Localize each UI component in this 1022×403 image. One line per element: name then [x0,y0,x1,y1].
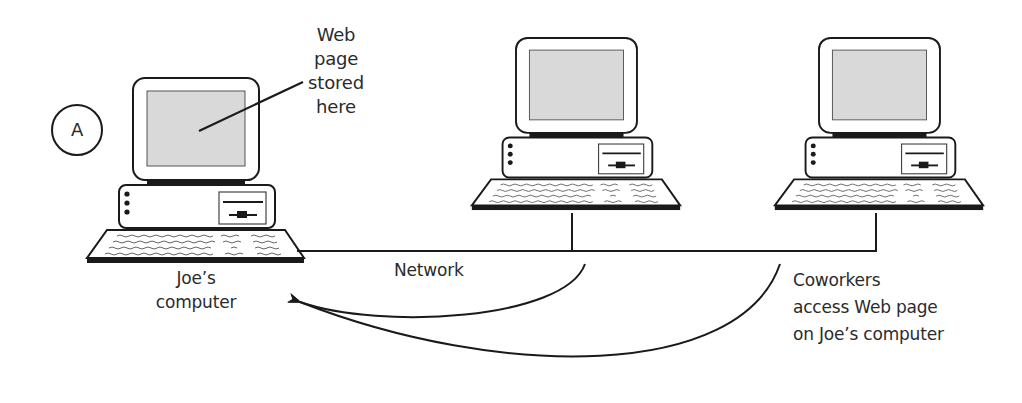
access-arrows [300,264,780,356]
joe-computer-label: Joe’s computer [136,266,256,314]
marker-label: A [62,119,92,141]
callout-line: Web [298,23,374,47]
callout-line: page [298,47,374,71]
network-bus [297,213,876,251]
callout-text: Web page stored here [298,23,374,119]
caption-line: on Joe’s computer [793,321,944,348]
coworker-computer-icon [775,38,983,210]
caption-text: Coworkers access Web page on Joe’s compu… [793,267,944,348]
joe-computer-icon [87,78,304,263]
coworker-computer-icon [472,38,680,210]
network-label: Network [394,259,464,281]
network-diagram: A Web page stored here Joe’s computer Ne… [0,0,1022,403]
caption-line: access Web page [793,294,944,321]
caption-line: Coworkers [793,267,944,294]
callout-line: here [298,95,374,119]
callout-line: stored [298,71,374,95]
